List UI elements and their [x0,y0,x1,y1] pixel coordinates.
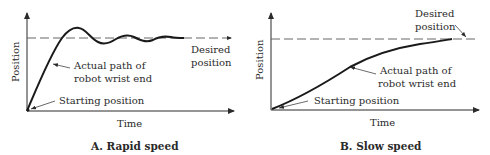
path-pointer-arrow [350,67,376,74]
x-axis-label: Time [117,118,142,129]
actual-path-label: Actual path of [379,65,453,76]
panel-slow-speed: Position Time Desired position Actual pa… [254,8,479,152]
panel-caption: A. Rapid speed [90,140,179,152]
starting-position-label: Starting position [59,95,145,106]
panel-caption: B. Slow speed [340,140,422,152]
y-axis-label: Position [10,41,21,82]
actual-path-label: Actual path of [73,60,147,71]
y-axis-label: Position [254,39,265,80]
panel-rapid-speed: Position Time Desired position Actual pa… [10,13,234,152]
start-point [27,109,30,112]
desired-position-label: Desired [191,44,231,55]
x-axis-label: Time [370,117,395,128]
actual-path-label-2: robot wrist end [378,78,457,89]
starting-position-label: Starting position [314,95,400,106]
start-pointer-arrow [31,101,55,109]
desired-position-label-2: position [191,57,232,68]
desired-pointer-arrow [455,25,466,37]
actual-path-label-2: robot wrist end [74,73,153,84]
desired-position-label-2: position [415,21,456,32]
path-pointer-arrow [53,64,70,68]
desired-position-label: Desired [415,8,455,19]
